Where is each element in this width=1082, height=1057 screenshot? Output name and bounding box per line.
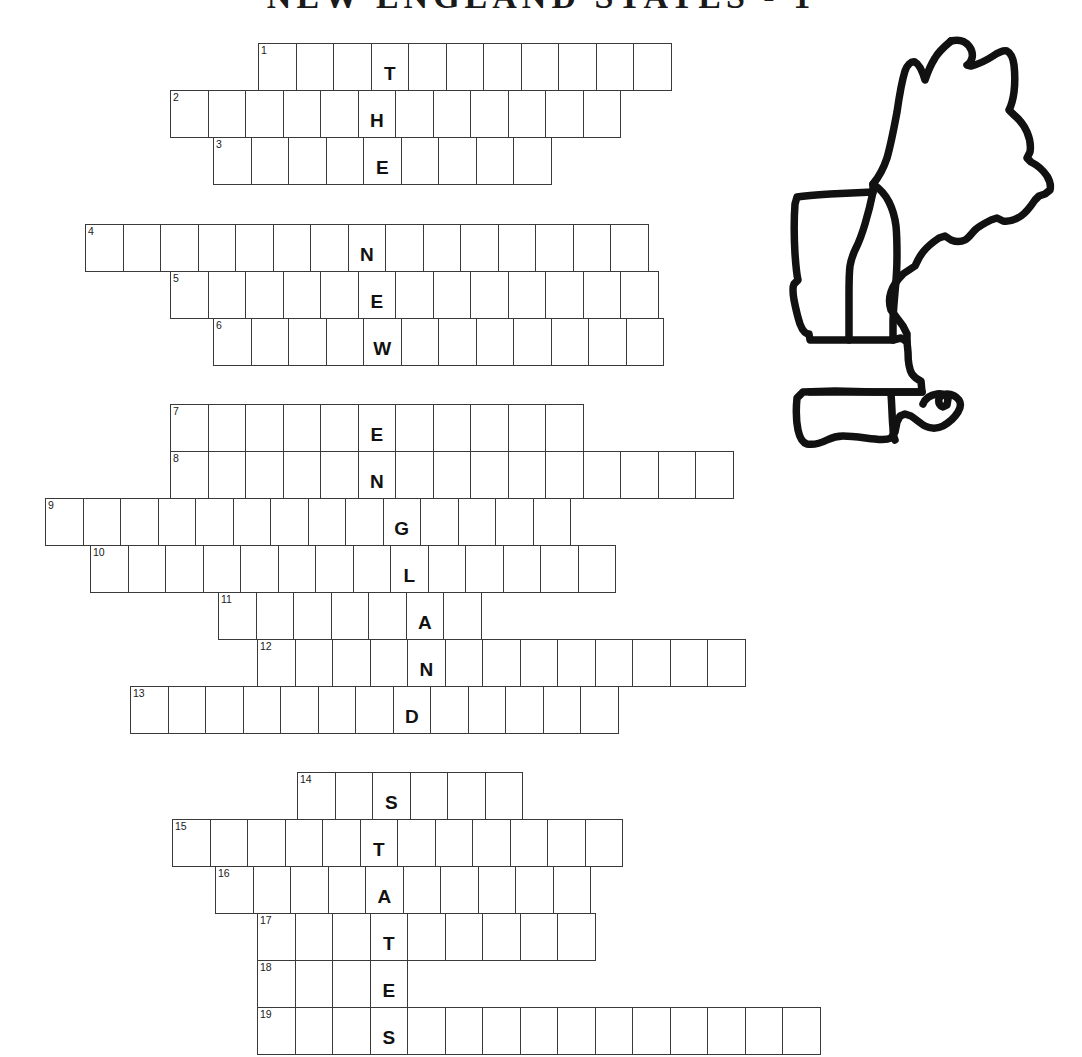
crossword-cell[interactable]: [290, 866, 329, 914]
crossword-cell[interactable]: [310, 224, 349, 272]
crossword-cell[interactable]: [395, 90, 434, 138]
crossword-cell[interactable]: [620, 271, 659, 319]
crossword-cell[interactable]: [620, 451, 659, 499]
crossword-cell[interactable]: [320, 404, 359, 452]
crossword-cell[interactable]: 2: [170, 90, 209, 138]
crossword-cell[interactable]: [208, 90, 247, 138]
crossword-cell[interactable]: [707, 1007, 746, 1055]
crossword-cell[interactable]: E: [363, 137, 402, 185]
crossword-cell[interactable]: [468, 686, 507, 734]
crossword-cell[interactable]: [510, 819, 549, 867]
crossword-cell[interactable]: [245, 404, 284, 452]
crossword-cell[interactable]: [283, 271, 322, 319]
crossword-cell[interactable]: [557, 913, 596, 961]
crossword-cell[interactable]: [205, 686, 244, 734]
crossword-cell[interactable]: [610, 224, 649, 272]
crossword-cell[interactable]: [328, 866, 367, 914]
crossword-cell[interactable]: [403, 866, 442, 914]
crossword-cell[interactable]: 19: [257, 1007, 296, 1055]
crossword-cell[interactable]: [438, 318, 477, 366]
crossword-cell[interactable]: [293, 592, 332, 640]
crossword-cell[interactable]: [433, 451, 472, 499]
crossword-cell[interactable]: 17: [257, 913, 296, 961]
crossword-cell[interactable]: [545, 271, 584, 319]
crossword-cell[interactable]: [160, 224, 199, 272]
crossword-cell[interactable]: T: [371, 43, 410, 91]
crossword-cell[interactable]: D: [393, 686, 432, 734]
crossword-cell[interactable]: [331, 592, 370, 640]
crossword-cell[interactable]: [498, 224, 537, 272]
crossword-cell[interactable]: [460, 224, 499, 272]
crossword-cell[interactable]: [482, 1007, 521, 1055]
crossword-cell[interactable]: [283, 404, 322, 452]
crossword-cell[interactable]: [295, 1007, 334, 1055]
crossword-cell[interactable]: [707, 639, 746, 687]
crossword-cell[interactable]: [195, 498, 234, 546]
crossword-cell[interactable]: E: [370, 960, 409, 1008]
crossword-cell[interactable]: [445, 913, 484, 961]
crossword-cell[interactable]: [578, 545, 617, 593]
crossword-cell[interactable]: [83, 498, 122, 546]
crossword-cell[interactable]: H: [358, 90, 397, 138]
crossword-cell[interactable]: [632, 1007, 671, 1055]
crossword-cell[interactable]: [128, 545, 167, 593]
crossword-cell[interactable]: [253, 866, 292, 914]
crossword-cell[interactable]: [495, 498, 534, 546]
crossword-cell[interactable]: [553, 866, 592, 914]
crossword-cell[interactable]: [585, 819, 624, 867]
crossword-cell[interactable]: [322, 819, 361, 867]
crossword-cell[interactable]: 8: [170, 451, 209, 499]
crossword-cell[interactable]: [435, 819, 474, 867]
crossword-cell[interactable]: 11: [218, 592, 257, 640]
crossword-cell[interactable]: [557, 1007, 596, 1055]
crossword-cell[interactable]: [288, 318, 327, 366]
crossword-cell[interactable]: [543, 686, 582, 734]
crossword-cell[interactable]: [433, 90, 472, 138]
crossword-cell[interactable]: [168, 686, 207, 734]
crossword-cell[interactable]: [478, 866, 517, 914]
crossword-cell[interactable]: A: [365, 866, 404, 914]
crossword-cell[interactable]: 14: [297, 772, 336, 820]
crossword-cell[interactable]: 12: [257, 639, 296, 687]
crossword-cell[interactable]: [158, 498, 197, 546]
crossword-cell[interactable]: [395, 404, 434, 452]
crossword-cell[interactable]: [326, 137, 365, 185]
crossword-cell[interactable]: [573, 224, 612, 272]
crossword-cell[interactable]: [583, 271, 622, 319]
crossword-cell[interactable]: [557, 639, 596, 687]
crossword-cell[interactable]: [401, 318, 440, 366]
crossword-cell[interactable]: [295, 639, 334, 687]
crossword-cell[interactable]: N: [358, 451, 397, 499]
crossword-cell[interactable]: 9: [45, 498, 84, 546]
crossword-cell[interactable]: [256, 592, 295, 640]
crossword-cell[interactable]: [198, 224, 237, 272]
crossword-cell[interactable]: [595, 639, 634, 687]
crossword-cell[interactable]: [695, 451, 734, 499]
crossword-cell[interactable]: G: [383, 498, 422, 546]
crossword-cell[interactable]: [333, 43, 372, 91]
crossword-cell[interactable]: [476, 137, 515, 185]
crossword-cell[interactable]: [335, 772, 374, 820]
crossword-cell[interactable]: [208, 451, 247, 499]
crossword-cell[interactable]: [782, 1007, 821, 1055]
crossword-cell[interactable]: [320, 271, 359, 319]
crossword-cell[interactable]: [315, 545, 354, 593]
crossword-cell[interactable]: [595, 1007, 634, 1055]
crossword-cell[interactable]: [332, 913, 371, 961]
crossword-cell[interactable]: [320, 451, 359, 499]
crossword-cell[interactable]: [332, 960, 371, 1008]
crossword-cell[interactable]: [513, 318, 552, 366]
crossword-cell[interactable]: [458, 498, 497, 546]
crossword-cell[interactable]: N: [407, 639, 446, 687]
crossword-cell[interactable]: [433, 271, 472, 319]
crossword-cell[interactable]: [208, 271, 247, 319]
crossword-cell[interactable]: [355, 686, 394, 734]
crossword-cell[interactable]: [485, 772, 524, 820]
crossword-cell[interactable]: [370, 639, 409, 687]
crossword-cell[interactable]: [428, 545, 467, 593]
crossword-cell[interactable]: [345, 498, 384, 546]
crossword-cell[interactable]: [580, 686, 619, 734]
crossword-grid[interactable]: 1T2H3E4N5E6W7E8N9G10L11A12N13D14S15T16A1…: [0, 0, 900, 1057]
crossword-cell[interactable]: [430, 686, 469, 734]
crossword-cell[interactable]: [520, 1007, 559, 1055]
